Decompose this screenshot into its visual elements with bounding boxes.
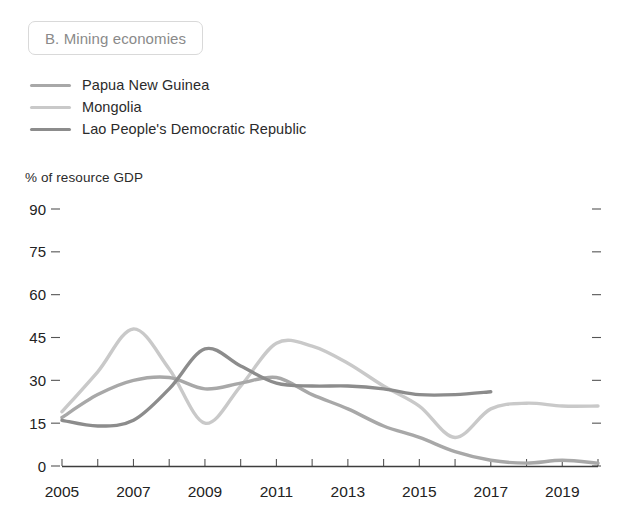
y-axis-tick-label: 30 [29, 372, 46, 389]
x-axis-tick-labels: 20052007200920112013201520172019 [45, 483, 580, 500]
y-axis-tick-label: 45 [29, 329, 46, 346]
y-axis-tick-label: 90 [29, 201, 46, 218]
y-axis-tick-label: 15 [29, 415, 46, 432]
series-line-papua-new-guinea [62, 377, 598, 463]
y-axis-tick-labels: 0153045607590 [29, 201, 46, 475]
x-axis-tick-label: 2007 [116, 483, 150, 500]
y-axis-tick-marks [51, 209, 60, 466]
y-axis-tick-label: 75 [29, 243, 46, 260]
x-axis-tick-label: 2015 [402, 483, 436, 500]
series-line-mongolia [62, 329, 598, 438]
x-axis-tick-label: 2019 [545, 483, 579, 500]
x-axis-tick-label: 2013 [331, 483, 365, 500]
y-axis-tick-marks-right [592, 209, 601, 466]
y-axis-tick-label: 0 [38, 458, 46, 475]
chart-plot-area: 0153045607590 20052007200920112013201520… [0, 0, 621, 513]
chart-figure: B. Mining economies Papua New Guinea Mon… [0, 0, 621, 513]
x-axis-tick-label: 2017 [474, 483, 508, 500]
x-axis-tick-label: 2011 [260, 483, 293, 500]
chart-series-group [62, 329, 598, 463]
x-axis-tick-label: 2009 [188, 483, 222, 500]
y-axis-tick-label: 60 [29, 286, 46, 303]
x-axis-tick-label: 2005 [45, 483, 79, 500]
